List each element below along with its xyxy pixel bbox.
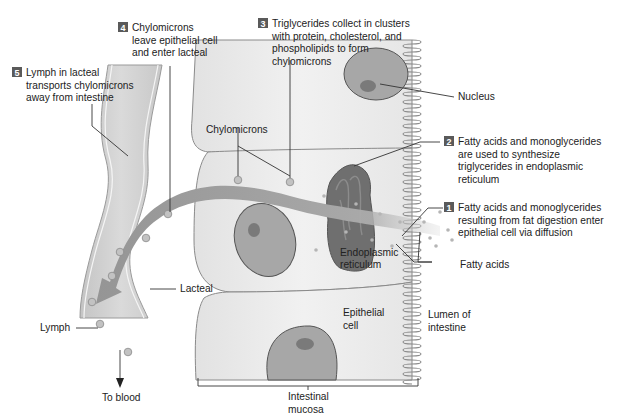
fatty-acid-dot bbox=[428, 236, 432, 240]
fatty-acid-dot bbox=[370, 238, 374, 242]
step-4: 4Chylomicronsleave epithelial celland en… bbox=[118, 22, 218, 58]
mucosa-label-line1: Intestinal bbox=[288, 391, 329, 402]
er-label-line1: Endoplasmic bbox=[340, 247, 398, 258]
fatty-acid-dot bbox=[378, 212, 382, 216]
chylomicron bbox=[286, 178, 294, 186]
step-text-line: triglycerides in endoplasmic bbox=[458, 161, 583, 172]
fat-absorption-diagram: 1Fatty acids and monoglyceridesresulting… bbox=[0, 0, 625, 419]
fatty-acid-dot bbox=[446, 228, 450, 232]
step-number: 2 bbox=[446, 137, 451, 147]
er-label-line2: reticulum bbox=[340, 259, 381, 270]
chylomicron bbox=[116, 248, 124, 256]
step-text-line: reticulum bbox=[458, 174, 499, 185]
nucleus-top bbox=[344, 48, 408, 100]
chylomicron bbox=[142, 234, 150, 242]
chylomicron bbox=[124, 348, 132, 356]
step-text-line: resulting from fat digestion enter bbox=[458, 215, 604, 226]
nucleus-label: Nucleus bbox=[458, 91, 495, 102]
fatty-acid-dot bbox=[438, 210, 442, 214]
chylomicron bbox=[108, 272, 116, 280]
fatty-acid-dot bbox=[322, 194, 326, 198]
chylomicron bbox=[96, 320, 104, 328]
to-blood-label: To blood bbox=[102, 392, 141, 403]
step-text-line: Fatty acids and monoglycerides bbox=[458, 202, 601, 213]
fatty-acid-dot bbox=[314, 248, 318, 252]
chylomicron bbox=[88, 298, 96, 306]
mucosa-label-line2: mucosa bbox=[288, 404, 324, 415]
chylomicrons-label: Chylomicrons bbox=[206, 124, 268, 135]
step-text-line: epithelial cell via diffusion bbox=[458, 227, 573, 238]
step-text-line: are used to synthesize bbox=[458, 149, 560, 160]
fatty-acid-dot bbox=[422, 220, 426, 224]
step-number: 4 bbox=[120, 23, 125, 33]
chylomicron bbox=[164, 210, 172, 218]
lumen-label-line2: intestine bbox=[428, 322, 466, 333]
fatty-acid-dot bbox=[450, 238, 454, 242]
step-number: 1 bbox=[446, 203, 451, 213]
lumen-label-line1: Lumen of bbox=[428, 309, 471, 320]
step-text-line: away from intestine bbox=[26, 92, 114, 103]
lymph-label: Lymph bbox=[40, 322, 70, 333]
fatty-acids-label: Fatty acids bbox=[460, 259, 509, 270]
fatty-acid-dot bbox=[354, 202, 358, 206]
chylomicron bbox=[234, 176, 242, 184]
step-text-line: phospholipids to form bbox=[272, 43, 369, 54]
step-text-line: chylomicrons bbox=[272, 56, 331, 67]
lacteal-label: Lacteal bbox=[180, 283, 213, 294]
step-number: 3 bbox=[260, 19, 265, 29]
step-text-line: and enter lacteal bbox=[132, 47, 207, 58]
fatty-acid-dot bbox=[398, 220, 402, 224]
step-text-line: leave epithelial cell bbox=[132, 35, 218, 46]
fatty-acid-dot bbox=[434, 244, 438, 248]
step-text-line: transports chylomicrons bbox=[26, 80, 134, 91]
fatty-acid-dot bbox=[344, 230, 348, 234]
step-text-line: Triglycerides collect in clusters bbox=[272, 18, 410, 29]
step-1: 1Fatty acids and monoglyceridesresulting… bbox=[444, 202, 604, 238]
step-number: 5 bbox=[14, 68, 19, 78]
epithelial-cell-label-line2: cell bbox=[343, 320, 358, 331]
step-text-line: Chylomicrons bbox=[132, 22, 194, 33]
step-2: 2Fatty acids and monoglyceridesare used … bbox=[444, 136, 601, 185]
epithelial-cell-label-line1: Epithelial bbox=[343, 307, 384, 318]
step-text-line: Fatty acids and monoglycerides bbox=[458, 136, 601, 147]
step-text-line: Lymph in lacteal bbox=[26, 67, 99, 78]
step-text-line: with protein, cholesterol, and bbox=[271, 31, 402, 42]
